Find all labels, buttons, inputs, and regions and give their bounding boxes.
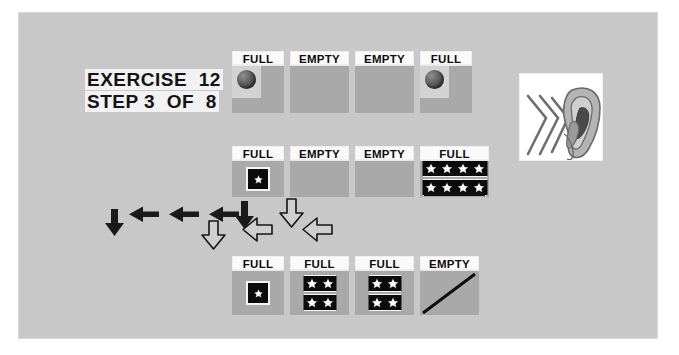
top-cell-4[interactable]: FULL [420, 51, 472, 113]
middle-cell-2-body [290, 160, 349, 197]
middle-cell-4-label: FULL [420, 146, 489, 160]
star-badge [246, 167, 270, 191]
middle-cell-1-body [232, 160, 284, 197]
arrow-left-solid-2 [169, 206, 199, 222]
star-grid [368, 275, 401, 311]
progress-bar [424, 192, 485, 196]
top-cell-2[interactable]: EMPTY [290, 51, 349, 113]
star-strip [368, 275, 401, 292]
top-cell-1-body [232, 65, 284, 113]
top-cell-3[interactable]: EMPTY [355, 51, 414, 113]
star-strip [303, 294, 336, 311]
ear-illustration-panel [519, 73, 603, 161]
exercise-panel: EXERCISE 12 STEP 3 OF 8 FULL EMPTY EMPTY… [19, 13, 657, 338]
star-icon [386, 296, 399, 309]
middle-cell-1[interactable]: FULL [232, 146, 284, 197]
star-icon [386, 277, 399, 290]
arrow-left-outline-1 [243, 218, 272, 241]
middle-cell-2-label: EMPTY [290, 146, 349, 160]
strike-through-icon [420, 271, 479, 315]
star-icon [305, 296, 318, 309]
bottom-cell-4[interactable]: EMPTY [420, 256, 479, 315]
star-icon [472, 162, 485, 175]
bottom-cell-4-body [420, 270, 479, 315]
star-icon [424, 162, 437, 175]
bottom-cell-2[interactable]: FULL [290, 256, 349, 315]
middle-cell-1-label: FULL [232, 146, 284, 160]
arrow-left-solid-1 [129, 206, 159, 222]
arrow-down-solid-left [105, 209, 124, 236]
top-cell-3-label: EMPTY [355, 51, 414, 65]
arrow-down-solid-right [235, 201, 254, 229]
star-badge [246, 281, 270, 305]
exercise-step-line: STEP 3 OF 8 [85, 91, 219, 112]
star-icon [370, 296, 383, 309]
star-icon [305, 277, 318, 290]
ear-with-sound-waves-icon [520, 74, 603, 161]
star-icon [321, 296, 334, 309]
bottom-row: FULL FULL [232, 256, 479, 315]
bottom-cell-2-body [290, 270, 349, 315]
star-icon [253, 174, 264, 185]
top-cell-4-body [420, 65, 472, 113]
bottom-cell-1-body [232, 270, 284, 315]
top-cell-4-label: FULL [420, 51, 472, 65]
arrow-down-outline-center [202, 221, 225, 249]
middle-cell-4-body [420, 160, 489, 197]
star-strip [368, 294, 401, 311]
middle-cell-4[interactable]: FULL [420, 146, 489, 197]
ball-icon [237, 70, 256, 89]
star-icon [440, 162, 453, 175]
top-cell-2-body [290, 65, 349, 113]
top-row: FULL EMPTY EMPTY FULL [232, 51, 472, 113]
middle-cell-2[interactable]: EMPTY [290, 146, 349, 197]
star-strip [422, 160, 487, 177]
exercise-title-line: EXERCISE 12 [85, 69, 223, 90]
top-cell-1[interactable]: FULL [232, 51, 284, 113]
top-cell-2-label: EMPTY [290, 51, 349, 65]
star-grid [422, 160, 487, 196]
arrow-down-outline-top-right [280, 199, 303, 227]
bottom-cell-2-label: FULL [290, 256, 349, 270]
exercise-caption: EXERCISE 12 STEP 3 OF 8 [85, 69, 223, 112]
star-strip [303, 275, 336, 292]
ball-icon [425, 70, 444, 89]
middle-cell-3[interactable]: EMPTY [355, 146, 414, 197]
bottom-cell-3[interactable]: FULL [355, 256, 414, 315]
arrow-left-outline-2 [303, 218, 332, 241]
bottom-cell-3-body [355, 270, 414, 315]
star-icon [253, 288, 264, 299]
arrow-left-solid-3 [209, 206, 239, 222]
top-cell-1-label: FULL [232, 51, 284, 65]
star-icon [456, 162, 469, 175]
bottom-cell-3-label: FULL [355, 256, 414, 270]
middle-cell-3-body [355, 160, 414, 197]
middle-row: FULL EMPTY EMPTY FULL [232, 146, 489, 197]
bottom-cell-4-label: EMPTY [420, 256, 479, 270]
middle-cell-3-label: EMPTY [355, 146, 414, 160]
bottom-cell-1-label: FULL [232, 256, 284, 270]
bottom-cell-1[interactable]: FULL [232, 256, 284, 315]
top-cell-3-body [355, 65, 414, 113]
star-grid [303, 275, 336, 311]
star-icon [321, 277, 334, 290]
star-icon [370, 277, 383, 290]
